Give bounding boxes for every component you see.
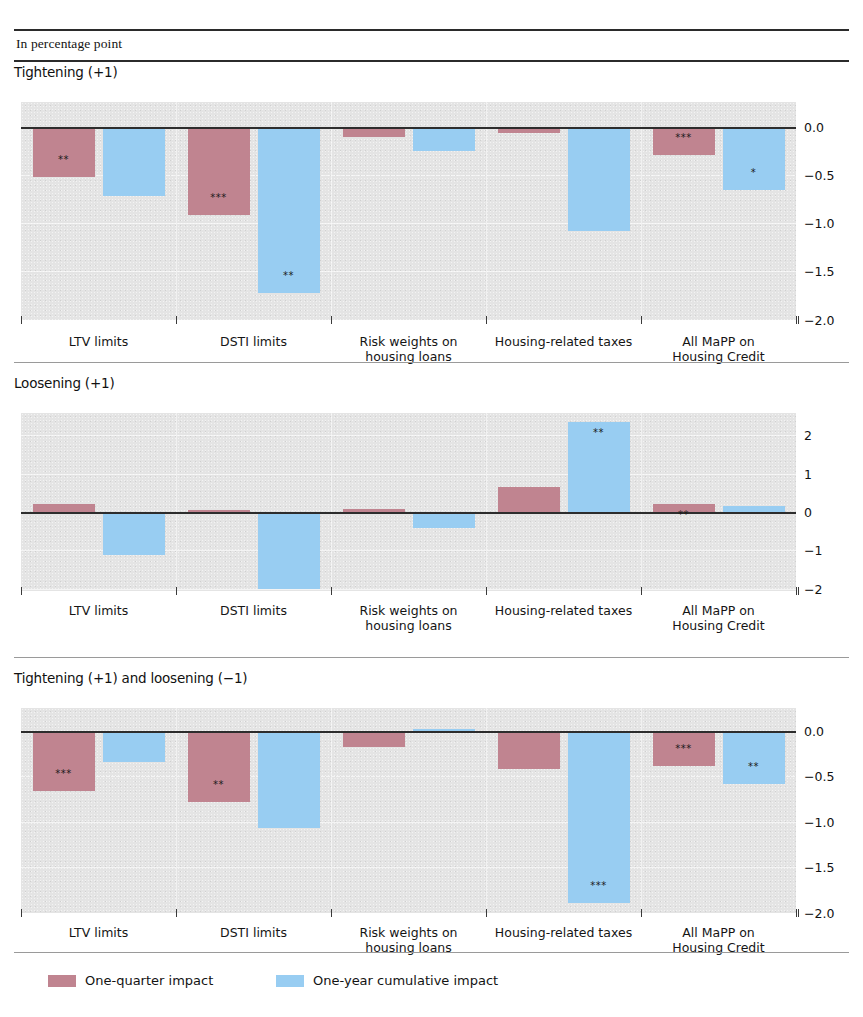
x-axis-category-label: All MaPP on Housing Credit <box>672 334 764 365</box>
x-axis-category-label: LTV limits <box>69 334 128 350</box>
significance-marker: ** <box>58 155 69 165</box>
panel-separator-2 <box>14 657 849 658</box>
group-divider <box>486 102 487 320</box>
significance-marker: *** <box>55 769 72 779</box>
bar <box>343 731 405 747</box>
legend-swatch-icon <box>48 975 76 987</box>
bar <box>103 127 165 196</box>
gridline <box>21 776 796 777</box>
gridline <box>21 435 796 436</box>
y-axis-tick-label: −2.0 <box>804 905 834 920</box>
x-axis-category-label: LTV limits <box>69 925 128 941</box>
x-axis-category-label: Housing-related taxes <box>495 925 632 941</box>
x-axis-tick <box>796 587 797 595</box>
x-axis-category-label: LTV limits <box>69 603 128 619</box>
bar <box>723 731 785 784</box>
x-axis-tick <box>21 909 22 917</box>
y-axis-tick-label: −2.0 <box>804 312 834 327</box>
bar <box>568 731 630 903</box>
figure-page: In percentage point Tightening (+1) ****… <box>0 0 863 1017</box>
y-axis-tick-label: 0.0 <box>804 724 824 739</box>
legend-item-one_year[interactable]: One-year cumulative impact <box>276 973 498 988</box>
group-divider <box>486 708 487 913</box>
y-axis-bottom-tick <box>798 909 799 917</box>
significance-marker: *** <box>675 744 692 754</box>
legend-item-one_quarter[interactable]: One-quarter impact <box>48 973 213 988</box>
y-axis-tick-label: −1.5 <box>804 264 834 279</box>
group-divider <box>641 708 642 913</box>
group-divider <box>176 102 177 320</box>
x-axis-category-label: DSTI limits <box>220 925 287 941</box>
x-axis-category-label: Housing-related taxes <box>495 603 632 619</box>
x-axis-tick <box>176 909 177 917</box>
plot-canvas: **** <box>21 413 796 591</box>
legend-swatch-icon <box>276 975 304 987</box>
bar <box>258 731 320 828</box>
bar <box>413 512 475 528</box>
x-axis-tick <box>21 316 22 324</box>
units-label: In percentage point <box>16 36 122 52</box>
group-divider <box>641 102 642 320</box>
y-axis-bottom-tick <box>798 587 799 595</box>
panel-separator-1 <box>14 362 849 363</box>
y-axis-tick-label: −1.0 <box>804 216 834 231</box>
y-axis-tick-label: −0.5 <box>804 167 834 182</box>
y-axis-tick-label: 0.0 <box>804 119 824 134</box>
x-axis-tick <box>486 587 487 595</box>
x-axis-tick <box>641 909 642 917</box>
bar <box>258 512 320 589</box>
plot-canvas: *********** <box>21 102 796 320</box>
panel-title: Tightening (+1) <box>14 66 849 80</box>
significance-marker: ** <box>678 510 689 520</box>
y-axis-tick-label: 1 <box>804 466 812 481</box>
gridline <box>21 589 796 590</box>
gridline <box>21 223 796 224</box>
gridline <box>21 271 796 272</box>
bar <box>33 127 95 177</box>
y-axis-tick-label: −0.5 <box>804 769 834 784</box>
gridline <box>21 867 796 868</box>
x-axis-category-label: DSTI limits <box>220 334 287 350</box>
y-axis-tick-label: −2 <box>804 581 822 596</box>
group-divider <box>486 413 487 591</box>
x-axis-tick <box>796 909 797 917</box>
x-axis-category-label: Risk weights on housing loans <box>359 334 457 365</box>
panel-loosening: Loosening (+1) ****210−1−2LTV limitsDSTI… <box>14 377 849 391</box>
y-axis-bottom-tick <box>798 316 799 324</box>
bar <box>188 731 250 802</box>
x-axis-tick <box>331 909 332 917</box>
y-axis-tick-label: −1 <box>804 543 822 558</box>
x-axis-tick <box>21 587 22 595</box>
significance-marker: ** <box>213 780 224 790</box>
zero-axis-line <box>21 127 796 129</box>
x-axis-category-label: DSTI limits <box>220 603 287 619</box>
group-divider <box>331 708 332 913</box>
bar <box>498 487 560 512</box>
bar <box>33 731 95 791</box>
y-axis-tick-label: −1.5 <box>804 860 834 875</box>
panel-title: Loosening (+1) <box>14 377 849 391</box>
gridline <box>21 474 796 475</box>
y-axis-tick-label: 2 <box>804 428 812 443</box>
x-axis-tick <box>331 316 332 324</box>
y-axis-tick-label: 0 <box>804 505 812 520</box>
x-axis-category-label: Housing-related taxes <box>495 334 632 350</box>
significance-marker: ** <box>283 271 294 281</box>
bar <box>103 512 165 555</box>
x-axis-tick <box>641 316 642 324</box>
gridline <box>21 822 796 823</box>
panel-tightening: Tightening (+1) ***********0.0−0.5−1.0−1… <box>14 66 849 80</box>
x-axis-tick <box>641 587 642 595</box>
group-divider <box>176 413 177 591</box>
x-axis-category-label: Risk weights on housing loans <box>359 603 457 634</box>
bar <box>723 127 785 191</box>
legend-label: One-year cumulative impact <box>313 973 498 988</box>
x-axis-tick <box>486 316 487 324</box>
zero-axis-line <box>21 731 796 733</box>
y-axis-tick-label: −1.0 <box>804 814 834 829</box>
group-divider <box>331 413 332 591</box>
bar <box>413 127 475 151</box>
panel-tightening-loosening: Tightening (+1) and loosening (−1) *****… <box>14 672 849 686</box>
x-axis-tick <box>796 316 797 324</box>
bar <box>103 731 165 762</box>
